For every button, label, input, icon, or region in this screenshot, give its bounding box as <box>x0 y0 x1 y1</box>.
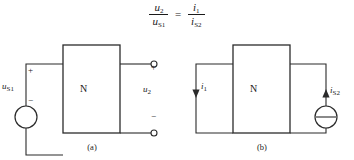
wire-a-bottom-left <box>26 128 63 155</box>
equation-right-numerator-sub: 1 <box>196 7 200 15</box>
wire-b-bottom-right <box>290 128 326 133</box>
wire-b-top-right <box>290 64 326 106</box>
wire-b-left-loop <box>196 64 233 133</box>
source-label-a-var: u <box>2 81 7 91</box>
circuit-diagram-canvas <box>0 34 354 160</box>
equation-display: u2 uS1 = i1 iS2 <box>0 2 354 27</box>
network-box-b <box>233 45 290 133</box>
output-minus-sign-a: − <box>151 111 156 121</box>
output-voltage-label-a-sub: 2 <box>148 88 152 96</box>
equation-right-numerator: i1 <box>188 2 204 15</box>
current-arrow-source-b <box>322 89 329 98</box>
equation-right-fraction: i1 iS2 <box>188 2 204 27</box>
equation-right-denominator-sub: S2 <box>194 21 201 29</box>
source-label-a-sub: S1 <box>7 85 14 93</box>
equation-left-numerator: u2 <box>149 2 168 15</box>
equation-left-denominator-sub: S1 <box>158 21 165 29</box>
network-box-a <box>63 45 120 133</box>
current-label-i1-b: i1 <box>201 81 207 91</box>
voltage-source-symbol-a <box>15 106 37 128</box>
equation-operator: = <box>171 9 185 20</box>
output-voltage-label-a-var: u <box>143 84 148 94</box>
terminal-a-bottom <box>151 130 157 136</box>
current-arrow-i1-b <box>192 90 199 99</box>
network-label-b: N <box>250 83 257 94</box>
current-label-i1-b-sub: 1 <box>204 85 208 93</box>
source-label-b-sub: S2 <box>333 89 340 97</box>
output-plus-sign-a: + <box>151 62 156 72</box>
equation-left-fraction: u2 uS1 <box>149 2 168 27</box>
output-voltage-label-a: u2 <box>143 84 151 94</box>
caption-b: (b) <box>232 142 292 152</box>
equation-left-numerator-sub: 2 <box>160 7 164 15</box>
source-label-b: iS2 <box>330 85 340 95</box>
network-label-a: N <box>80 83 87 94</box>
source-minus-sign-a: − <box>28 95 33 105</box>
equation-left-denominator: uS1 <box>149 15 168 27</box>
source-plus-sign-a: + <box>28 65 33 75</box>
equation-right-denominator: iS2 <box>188 15 204 27</box>
source-label-a: uS1 <box>2 81 14 91</box>
caption-a: (a) <box>62 142 122 152</box>
